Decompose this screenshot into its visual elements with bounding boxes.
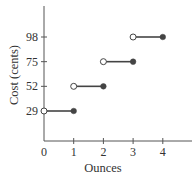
step-segment: [41, 108, 76, 114]
closed-endpoint: [71, 108, 77, 114]
step-segment: [100, 59, 136, 65]
step-chart: 01234 29527598 Ounces Cost (cents): [0, 0, 196, 183]
x-tick-label: 4: [160, 145, 166, 159]
x-tick-label: 3: [130, 145, 136, 159]
x-tick-label: 1: [71, 145, 77, 159]
open-endpoint: [41, 108, 47, 114]
x-tick-label: 0: [41, 145, 47, 159]
closed-endpoint: [130, 59, 136, 65]
step-segment: [71, 83, 107, 89]
axes: [44, 6, 192, 141]
y-axis-title: Cost (cents): [7, 45, 21, 105]
step-segment: [130, 34, 166, 40]
y-tick-label: 52: [26, 79, 38, 93]
x-tick-label: 2: [100, 145, 106, 159]
y-tick-label: 98: [26, 30, 38, 44]
step-segments: [41, 34, 166, 114]
open-endpoint: [130, 34, 136, 40]
closed-endpoint: [101, 84, 107, 90]
open-endpoint: [71, 83, 77, 89]
x-axis-title: Ounces: [84, 161, 122, 175]
open-endpoint: [100, 59, 106, 65]
y-tick-label: 75: [26, 55, 38, 69]
y-tick-label: 29: [26, 104, 38, 118]
closed-endpoint: [160, 34, 166, 40]
